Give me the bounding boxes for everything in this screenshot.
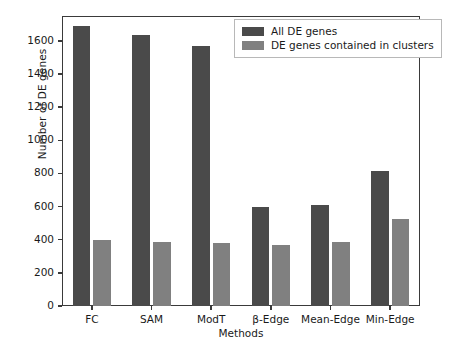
bar — [392, 219, 410, 306]
y-tick-mark — [58, 73, 62, 74]
legend-item: All DE genes — [242, 24, 434, 38]
legend-swatch — [242, 41, 264, 50]
y-tick-label: 1000 — [0, 133, 54, 145]
legend-item: DE genes contained in clusters — [242, 38, 434, 52]
y-tick-mark — [58, 239, 62, 240]
bar — [73, 26, 91, 306]
y-tick-label: 1400 — [0, 67, 54, 79]
y-tick-label: 0 — [0, 299, 54, 311]
y-tick-mark — [58, 206, 62, 207]
y-tick-label: 200 — [0, 266, 54, 278]
y-tick-mark — [58, 272, 62, 273]
bar — [192, 46, 210, 306]
bar-chart-figure: Number of DE genes Methods 0200400600800… — [0, 0, 456, 348]
y-tick-mark — [58, 173, 62, 174]
x-tick-mark — [270, 306, 271, 310]
legend: All DE genesDE genes contained in cluste… — [234, 19, 442, 58]
legend-swatch — [242, 27, 264, 36]
bar — [272, 245, 290, 306]
x-tick-label: Min-Edge — [345, 313, 435, 325]
y-tick-label: 800 — [0, 166, 54, 178]
legend-label: DE genes contained in clusters — [271, 39, 434, 51]
y-tick-mark — [58, 40, 62, 41]
y-tick-label: 1600 — [0, 34, 54, 46]
x-tick-mark — [210, 306, 211, 310]
x-tick-mark — [330, 306, 331, 310]
x-tick-mark — [91, 306, 92, 310]
plot-area — [62, 16, 420, 306]
bar — [132, 35, 150, 306]
bar — [153, 242, 171, 306]
y-tick-mark — [58, 140, 62, 141]
y-tick-label: 1200 — [0, 100, 54, 112]
bar — [371, 171, 389, 306]
bar — [252, 207, 270, 306]
y-tick-mark — [58, 106, 62, 107]
bar — [213, 243, 231, 306]
x-tick-mark — [151, 306, 152, 310]
legend-label: All DE genes — [271, 25, 337, 37]
x-tick-mark — [389, 306, 390, 310]
bar — [332, 242, 350, 306]
y-tick-label: 400 — [0, 233, 54, 245]
x-axis-label: Methods — [62, 327, 420, 339]
y-tick-label: 600 — [0, 200, 54, 212]
y-tick-mark — [58, 305, 62, 306]
bar — [93, 240, 111, 306]
bar — [311, 205, 329, 306]
